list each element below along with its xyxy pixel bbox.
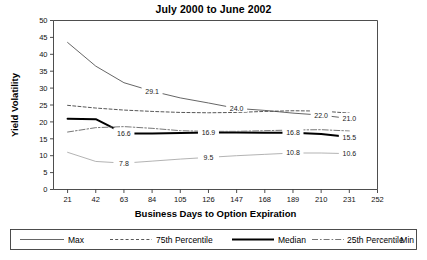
y-tick-label: 25 [39,101,47,110]
data-point-label: 21.0 [343,115,357,122]
y-tick-label: 15 [39,135,47,144]
series-line-max [68,42,350,118]
x-tick-label: 231 [343,195,356,204]
x-tick-label: 63 [120,195,128,204]
series-layer [68,42,350,163]
data-point-label: 7.8 [119,160,129,167]
data-point-label: 16.9 [202,129,216,136]
x-tick-label: 252 [371,195,384,204]
data-point-label: 15.5 [343,134,357,141]
x-tick-label: 189 [287,195,300,204]
x-tick-label: 147 [230,195,243,204]
x-tick-label: 21 [63,195,71,204]
plot-frame [54,21,378,190]
legend-label-median: Median [278,235,306,245]
data-point-label: 10.8 [286,149,300,156]
data-point-label: 16.8 [286,129,300,136]
x-tick-label: 168 [259,195,272,204]
y-tick-label: 0 [43,185,47,194]
x-axis-title: Business Days to Option Expiration [135,208,297,219]
axes-layer: 0510152025303540455021426384105126147168… [39,16,384,204]
legend-label-min: Min [400,235,414,245]
chart-canvas: 0510152025303540455021426384105126147168… [0,0,427,260]
chart-legend: Max75th PercentileMedian25th PercentileM… [11,230,417,250]
legend-label-max: Max [68,235,85,245]
data-point-label: 10.6 [343,150,357,157]
legend-label-75th-percentile: 75th Percentile [156,235,213,245]
x-tick-label: 42 [92,195,100,204]
y-tick-label: 20 [39,118,47,127]
y-tick-label: 35 [39,67,47,76]
data-point-label: 9.5 [204,154,214,161]
x-tick-label: 210 [315,195,328,204]
chart-container: July 2000 to June 2002 05101520253035404… [0,0,427,260]
x-tick-label: 84 [148,195,156,204]
x-tick-label: 126 [202,195,215,204]
data-point-label: 29.1 [145,88,159,95]
y-tick-label: 10 [39,151,47,160]
data-point-labels: 29.124.022.021.016.616.916.815.57.89.510… [113,86,359,167]
y-tick-label: 50 [39,16,47,25]
y-tick-label: 30 [39,84,47,93]
y-tick-label: 5 [43,168,47,177]
data-point-label: 16.6 [117,130,131,137]
y-axis-title: Yield Volatility [9,72,20,137]
data-point-label: 22.0 [314,112,328,119]
series-line-75th-percentile [68,105,350,113]
x-tick-label: 105 [174,195,187,204]
y-tick-label: 45 [39,33,47,42]
data-point-label: 24.0 [230,105,244,112]
y-tick-label: 40 [39,50,47,59]
